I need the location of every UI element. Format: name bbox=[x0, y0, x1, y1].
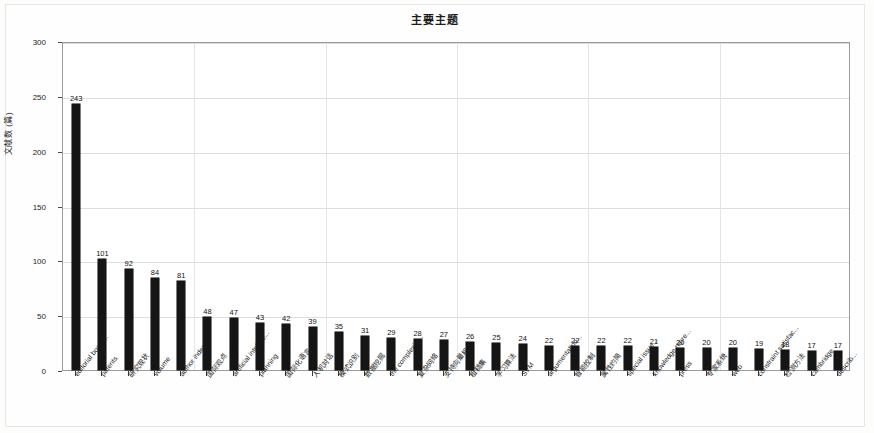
bar-rect bbox=[125, 269, 133, 370]
bar-value-label: 43 bbox=[256, 314, 264, 322]
bar-value-label: 42 bbox=[282, 315, 290, 323]
bar: 47 bbox=[230, 309, 238, 370]
bar: 243 bbox=[72, 95, 80, 370]
y-axis-tick-label: 50 bbox=[0, 312, 46, 321]
bar-value-label: 17 bbox=[834, 342, 842, 350]
bar-value-label: 22 bbox=[624, 337, 632, 345]
bar-value-label: 26 bbox=[466, 333, 474, 341]
y-axis-tick-label: 300 bbox=[0, 38, 46, 47]
y-axis-tick-mark bbox=[58, 371, 62, 372]
y-axis-tick-label: 150 bbox=[0, 202, 46, 211]
bar-value-label: 92 bbox=[124, 260, 132, 268]
bar-rect bbox=[151, 278, 159, 370]
bar-value-label: 81 bbox=[177, 272, 185, 280]
bar-value-label: 47 bbox=[230, 309, 238, 317]
y-axis-tick-label: 200 bbox=[0, 147, 46, 156]
y-axis-tick-label: 0 bbox=[0, 367, 46, 376]
bar-rect bbox=[72, 104, 80, 370]
figure-frame: 主要主题 文献数 (篇) 050100150200250300 24310192… bbox=[6, 5, 864, 426]
bar: 39 bbox=[309, 318, 317, 370]
bar-value-label: 29 bbox=[387, 329, 395, 337]
bar-value-label: 20 bbox=[702, 339, 710, 347]
bar-value-label: 25 bbox=[492, 334, 500, 342]
bar-value-label: 24 bbox=[518, 335, 526, 343]
bar-value-label: 243 bbox=[70, 95, 83, 103]
bar-value-label: 48 bbox=[203, 308, 211, 316]
bar-rect bbox=[177, 281, 185, 370]
bar-value-label: 39 bbox=[308, 318, 316, 326]
bar: 92 bbox=[125, 260, 133, 370]
bar-value-label: 27 bbox=[440, 331, 448, 339]
y-axis-tick-label: 250 bbox=[0, 92, 46, 101]
bar-value-label: 19 bbox=[755, 340, 763, 348]
bar: 101 bbox=[98, 250, 106, 370]
bar-value-label: 31 bbox=[361, 327, 369, 335]
bar-value-label: 35 bbox=[335, 323, 343, 331]
bar-series: 2431019284814847434239353129282726252422… bbox=[63, 43, 849, 370]
bar-rect bbox=[230, 318, 238, 370]
plot-area: 2431019284814847434239353129282726252422… bbox=[62, 42, 850, 371]
bar: 35 bbox=[335, 323, 343, 370]
bar-value-label: 101 bbox=[96, 250, 109, 258]
bar-value-label: 22 bbox=[597, 337, 605, 345]
bar-value-label: 17 bbox=[807, 342, 815, 350]
bar-rect bbox=[98, 259, 106, 370]
x-axis-labels: editorial board...patents研究现状volumeautho… bbox=[62, 373, 850, 433]
y-axis-tick-label: 100 bbox=[0, 257, 46, 266]
bar: 84 bbox=[151, 269, 159, 370]
bar: 42 bbox=[282, 315, 290, 370]
bar-value-label: 84 bbox=[151, 269, 159, 277]
bar: 81 bbox=[177, 272, 185, 370]
chart-title: 主要主题 bbox=[6, 11, 864, 27]
bar-value-label: 20 bbox=[729, 339, 737, 347]
bar-value-label: 22 bbox=[545, 337, 553, 345]
